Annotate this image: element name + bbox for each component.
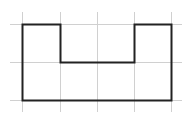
grid-diagram bbox=[0, 0, 190, 115]
